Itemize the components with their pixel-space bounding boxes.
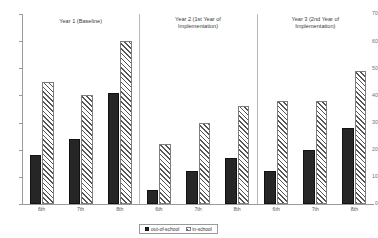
bar-out-of-school <box>30 155 42 204</box>
bar-out-of-school <box>225 158 237 204</box>
plot-area <box>22 14 374 203</box>
bar-out-of-school <box>108 93 120 204</box>
chart-legend: out-of-school in-school <box>139 224 218 234</box>
x-tick-label: 7th <box>178 206 217 212</box>
x-tick-label: 7th <box>61 206 100 212</box>
bar-in-school <box>81 95 93 204</box>
bar-out-of-school <box>342 128 354 204</box>
x-tick-label: 6th <box>22 206 61 212</box>
bar-in-school <box>355 71 367 204</box>
bar-out-of-school <box>186 171 198 204</box>
legend-label-in-school: in-school <box>192 227 212 232</box>
legend-item-out-of-school: out-of-school <box>145 227 179 232</box>
bar-out-of-school <box>147 190 159 204</box>
x-tick-label: 6th <box>257 206 296 212</box>
legend-swatch-in-school <box>186 227 190 231</box>
bar-chart: 010203040506070 Year 1 (Baseline)Year 2 … <box>0 0 378 238</box>
bar-out-of-school <box>303 150 315 204</box>
x-tick-label: 8th <box>218 206 257 212</box>
x-tick-label: 6th <box>139 206 178 212</box>
bar-in-school <box>120 41 132 204</box>
legend-label-out-of-school: out-of-school <box>151 227 179 232</box>
bar-in-school <box>42 82 54 204</box>
x-tick-label: 7th <box>296 206 335 212</box>
bar-in-school <box>277 101 289 204</box>
x-tick-label: 8th <box>100 206 139 212</box>
x-tick-label: 8th <box>335 206 374 212</box>
bars-layer <box>22 14 374 204</box>
legend-item-in-school: in-school <box>186 227 212 232</box>
legend-swatch-out-of-school <box>145 227 149 231</box>
bar-in-school <box>159 144 171 204</box>
bar-out-of-school <box>264 171 276 204</box>
bar-in-school <box>238 106 250 204</box>
bar-in-school <box>199 123 211 204</box>
bar-out-of-school <box>69 139 81 204</box>
x-axis-labels: 6th7th8th6th7th8th6th7th8th <box>22 205 374 217</box>
bar-in-school <box>316 101 328 204</box>
